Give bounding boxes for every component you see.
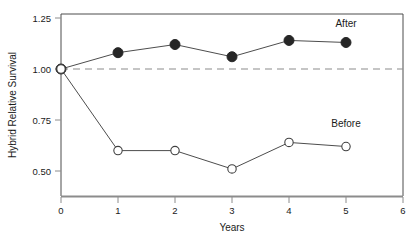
data-point [341, 37, 351, 47]
data-point [171, 146, 179, 154]
data-point [285, 138, 293, 146]
x-tick-label-6: 6 [400, 205, 405, 216]
x-tick-label-2: 2 [172, 205, 177, 216]
y-tick-label-0-50: 0.50 [33, 166, 52, 177]
y-axis-title: Hybrid Relative Survival [7, 52, 18, 158]
x-axis-title: Years [219, 222, 244, 233]
series-label-before: Before [331, 118, 361, 129]
data-point [284, 35, 294, 45]
data-point [227, 52, 237, 62]
series-markers-before [57, 65, 350, 173]
x-tick-label-3: 3 [229, 205, 234, 216]
line-chart: 1.25 1.00 0.75 0.50 0 1 2 3 4 5 6 Years … [0, 0, 417, 238]
data-point [228, 165, 236, 173]
x-tick-label-1: 1 [115, 205, 120, 216]
y-tick-label-1-25: 1.25 [33, 13, 52, 24]
series-line-before [61, 69, 346, 169]
data-point [113, 48, 123, 58]
x-tick-label-0: 0 [58, 205, 63, 216]
chart-figure: 1.25 1.00 0.75 0.50 0 1 2 3 4 5 6 Years … [0, 0, 417, 238]
data-point [57, 65, 65, 73]
x-axis-ticks [61, 197, 403, 203]
y-tick-label-0-75: 0.75 [33, 115, 52, 126]
data-point [170, 40, 180, 50]
x-tick-label-4: 4 [286, 205, 291, 216]
data-point [114, 146, 122, 154]
data-point [342, 142, 350, 150]
x-tick-label-5: 5 [343, 205, 348, 216]
series-line-after [61, 40, 346, 69]
y-tick-label-1-00: 1.00 [33, 64, 52, 75]
series-label-after: After [335, 18, 357, 29]
y-axis-ticks [55, 18, 61, 171]
